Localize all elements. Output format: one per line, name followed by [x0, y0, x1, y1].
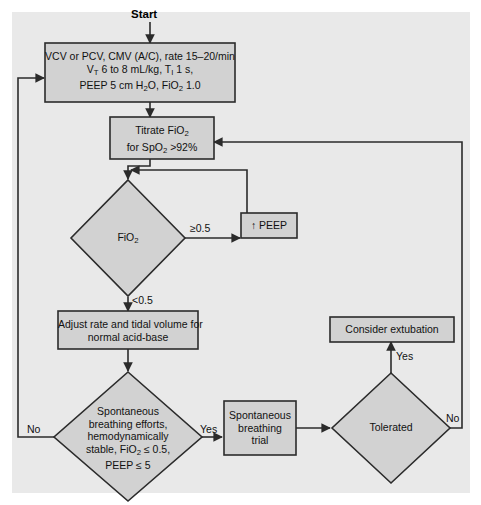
node-fio2-decision	[71, 180, 185, 296]
edge-label-fio2-high: ≥0.5	[190, 222, 210, 234]
flowchart-canvas: Start VCV or PCV, CMV (A/C), rate 15–20/…	[0, 0, 481, 505]
edge-label-spontaneous-yes: Yes	[200, 423, 217, 435]
edge-label-tolerated-yes: Yes	[396, 350, 413, 362]
node-sbt	[224, 401, 296, 455]
node-titrate	[110, 117, 214, 159]
edge-label-fio2-low: <0.5	[132, 294, 153, 306]
edge-spontaneous-no-to-settings	[18, 78, 54, 437]
node-adjust	[58, 311, 198, 349]
node-spontaneous-decision	[54, 372, 202, 501]
edge-tolerated-no-to-titrate	[214, 142, 462, 428]
edge-label-spontaneous-no: No	[27, 423, 40, 435]
node-extubation	[330, 317, 454, 342]
start-label: Start	[131, 8, 157, 20]
node-increase-peep	[241, 213, 297, 238]
flow-shapes	[45, 43, 454, 501]
edge-titrate-to-fio2	[128, 159, 150, 179]
node-initial-settings	[45, 43, 235, 102]
node-tolerated-decision	[332, 373, 450, 483]
flowchart-graphics	[0, 0, 481, 505]
edge-label-tolerated-no: No	[446, 412, 459, 424]
